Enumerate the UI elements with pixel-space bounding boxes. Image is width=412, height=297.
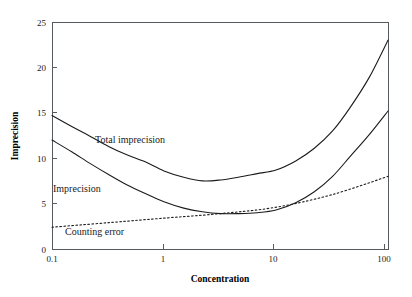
y-tick-label-10: 10 [37,154,47,164]
series-imprecision-line [52,111,388,214]
y-tick-label-0: 0 [42,245,47,255]
chart-figure: 0 5 10 15 20 25 0.1 1 10 100 Concentrati… [0,0,412,297]
series-total-imprecision-line [52,40,388,181]
x-tick-label-100: 100 [377,254,391,264]
series-counting-error-line [52,176,388,227]
y-tick-label-15: 15 [37,108,47,118]
annotation-total-imprecision: Total imprecision [95,134,165,145]
y-axis-ticks [52,22,57,249]
x-axis-tick-labels: 0.1 1 10 100 [46,254,391,264]
y-axis-tick-labels: 0 5 10 15 20 25 [37,18,47,255]
y-tick-label-5: 5 [42,199,47,209]
series-annotations: Total imprecision Imprecision Counting e… [53,134,165,237]
x-tick-label-10: 10 [269,254,279,264]
annotation-imprecision: Imprecision [53,183,101,194]
x-axis-ticks [52,244,384,249]
x-tick-label-0-1: 0.1 [46,254,57,264]
y-axis-title: Imprecision [10,111,20,160]
x-axis-title: Concentration [191,274,250,284]
y-tick-label-20: 20 [37,63,47,73]
annotation-counting-error: Counting error [65,226,125,237]
x-tick-label-1: 1 [161,254,166,264]
imprecision-vs-concentration-chart: 0 5 10 15 20 25 0.1 1 10 100 Concentrati… [0,0,412,297]
y-tick-label-25: 25 [37,18,47,28]
